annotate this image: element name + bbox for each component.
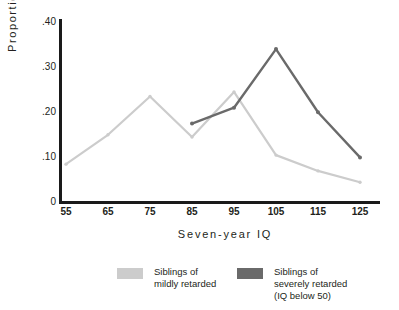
data-point (274, 47, 278, 51)
chart-figure: Proportion .40 .30 .20 .10 0 55 65 75 85… (0, 0, 399, 310)
series-line-0 (66, 92, 360, 182)
legend-label-severely-retarded: Siblings of severely retarded (IQ below … (274, 266, 347, 302)
legend-line-0: Siblings of (274, 266, 347, 278)
data-point (358, 155, 362, 159)
data-point (232, 90, 235, 93)
series-line-1 (192, 49, 360, 157)
legend-entry-mildly-retarded: Siblings of mildly retarded (117, 266, 216, 290)
legend-label-mildly-retarded: Siblings of mildly retarded (154, 266, 216, 290)
chart-legend: Siblings of mildly retarded Siblings of … (0, 266, 399, 310)
data-point (190, 122, 194, 126)
legend-line-1: mildly retarded (154, 278, 216, 290)
legend-entry-severely-retarded: Siblings of severely retarded (IQ below … (237, 266, 347, 302)
data-point (190, 135, 193, 138)
data-point (106, 133, 109, 136)
legend-line-0: Siblings of (154, 266, 216, 278)
data-point (358, 180, 361, 183)
plot-area (0, 0, 399, 310)
data-point (274, 153, 277, 156)
data-point (64, 162, 67, 165)
legend-swatch-mildly-retarded (117, 268, 143, 279)
legend-line-1: severely retarded (274, 278, 347, 290)
legend-line-2: (IQ below 50) (274, 290, 347, 302)
data-point (148, 95, 151, 98)
data-point (232, 106, 236, 110)
data-point (316, 169, 319, 172)
legend-swatch-severely-retarded (237, 268, 263, 279)
data-point (316, 110, 320, 114)
x-axis-title: Seven-year IQ (60, 228, 390, 240)
